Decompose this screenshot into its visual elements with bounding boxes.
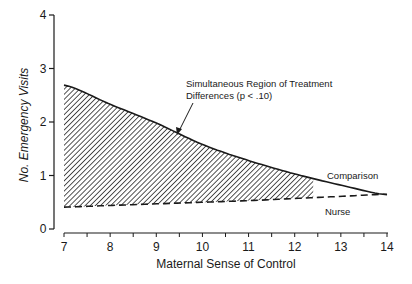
significance-region: [64, 85, 313, 207]
series-label-nurse: Nurse: [325, 206, 350, 217]
svg-text:7: 7: [61, 240, 68, 254]
svg-text:1: 1: [40, 169, 47, 183]
y-axis-title: No. Emergency Visits: [17, 68, 31, 183]
svg-text:10: 10: [196, 240, 210, 254]
svg-text:12: 12: [288, 240, 302, 254]
svg-text:9: 9: [153, 240, 160, 254]
svg-text:4: 4: [40, 8, 47, 22]
annotation-line2: Differences (p < .10): [186, 90, 272, 101]
chart: 01234 7891011121314 Comparison Nurse Sim…: [0, 0, 412, 284]
series-label-comparison: Comparison: [327, 170, 378, 181]
svg-text:14: 14: [380, 240, 394, 254]
svg-text:11: 11: [242, 240, 255, 254]
svg-text:0: 0: [40, 222, 47, 236]
svg-text:3: 3: [40, 62, 47, 76]
y-axis-ticks: 01234: [40, 8, 54, 236]
annotation-line1: Simultaneous Region of Treatment: [186, 78, 333, 89]
svg-text:13: 13: [334, 240, 348, 254]
svg-text:8: 8: [107, 240, 114, 254]
svg-text:2: 2: [40, 115, 47, 129]
x-axis-title: Maternal Sense of Control: [156, 257, 295, 271]
x-axis-ticks: 7891011121314: [61, 233, 394, 254]
annotation-arrow: [179, 103, 193, 131]
